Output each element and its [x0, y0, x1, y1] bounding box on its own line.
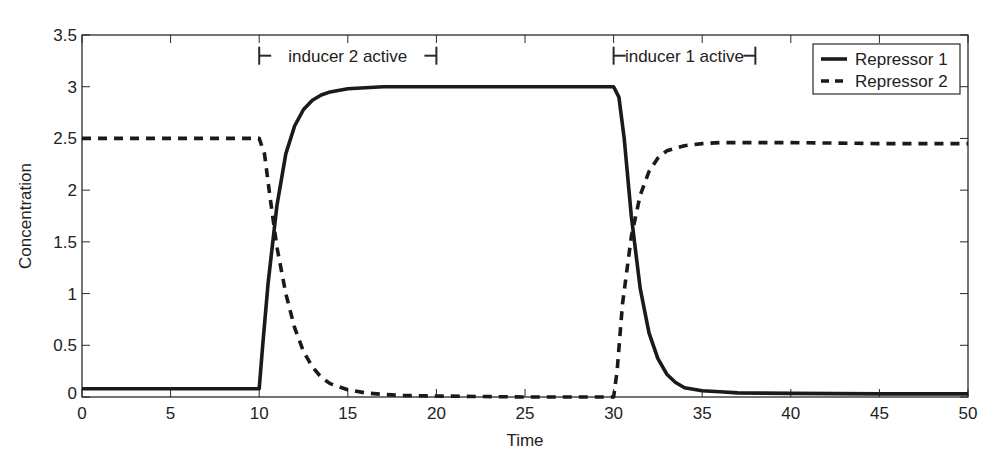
x-tick-label: 25: [516, 404, 535, 423]
x-axis-label: Time: [506, 431, 543, 450]
line-chart: 0510152025303540455000.511.522.533.5 ind…: [0, 0, 999, 473]
x-tick-label: 0: [77, 404, 86, 423]
x-tick-label: 15: [338, 404, 357, 423]
x-tick-label: 20: [427, 404, 446, 423]
series-line-1: [82, 87, 968, 394]
annotation-inducer-2: inducer 2 active: [259, 47, 436, 66]
x-tick-label: 5: [166, 404, 175, 423]
annotation-label: inducer 2 active: [288, 47, 407, 66]
y-tick-label: 2.5: [53, 129, 77, 148]
legend-label-1: Repressor 1: [855, 50, 948, 69]
y-tick-label: 3: [68, 78, 77, 97]
annotations: inducer 2 activeinducer 1 active: [259, 47, 755, 66]
y-axis-label: Concentration: [16, 163, 35, 269]
x-tick-label: 45: [870, 404, 889, 423]
y-tick-label: 1.5: [53, 233, 77, 252]
data-series: [82, 87, 968, 397]
annotation-label: inducer 1 active: [625, 47, 744, 66]
y-tick-label: 3.5: [53, 26, 77, 45]
y-tick-label: 1: [68, 285, 77, 304]
legend: Repressor 1Repressor 2: [813, 44, 960, 94]
x-tick-label: 30: [604, 404, 623, 423]
x-tick-label: 35: [693, 404, 712, 423]
legend-label-2: Repressor 2: [855, 72, 948, 91]
x-tick-label: 10: [250, 404, 269, 423]
y-tick-label: 2: [68, 181, 77, 200]
annotation-inducer-1: inducer 1 active: [614, 47, 756, 66]
y-tick-label: 0: [68, 384, 77, 403]
chart-container: 0510152025303540455000.511.522.533.5 ind…: [0, 0, 999, 473]
y-tick-label: 0.5: [53, 336, 77, 355]
x-tick-label: 50: [959, 404, 978, 423]
series-line-2: [82, 138, 968, 397]
x-tick-label: 40: [781, 404, 800, 423]
